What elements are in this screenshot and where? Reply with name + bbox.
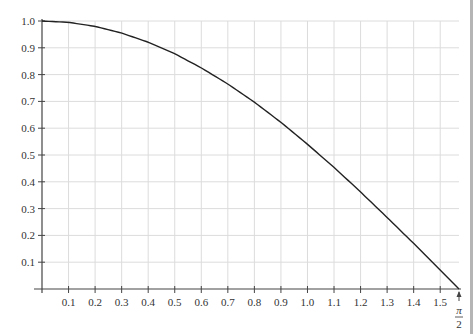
y-tick-label: 0.5 — [21, 149, 35, 161]
x-tick-label: 1.0 — [301, 296, 315, 308]
x-tick-label: 1.1 — [327, 296, 341, 308]
y-tick-label: 0.3 — [21, 203, 35, 215]
x-tick-label: 0.9 — [274, 296, 288, 308]
y-tick-label: 0.6 — [21, 122, 35, 134]
x-axis-end-label-pi-over-2: π2 — [455, 291, 463, 330]
x-tick-label: 0.3 — [115, 296, 129, 308]
y-tick-label: 0.7 — [21, 95, 35, 107]
x-tick-label: 1.3 — [380, 296, 394, 308]
x-tick-label: 0.2 — [88, 296, 102, 308]
x-tick-label: 1.4 — [407, 296, 421, 308]
pi-numerator: π — [456, 304, 462, 316]
y-tick-label: 0.8 — [21, 69, 35, 81]
y-tick-label: 0.1 — [21, 256, 35, 268]
y-tick-label: 0.2 — [21, 229, 35, 241]
pi-denominator: 2 — [456, 318, 462, 330]
x-tick-label: 0.7 — [221, 296, 235, 308]
x-tick-label: 0.5 — [168, 296, 182, 308]
y-tick-label: 0.4 — [21, 176, 35, 188]
x-tick-label: 0.6 — [194, 296, 208, 308]
y-tick-label: 1.0 — [21, 15, 35, 27]
y-tick-label: 0.9 — [21, 42, 35, 54]
x-tick-label: 1.5 — [433, 296, 447, 308]
x-tick-label: 0.1 — [62, 296, 76, 308]
axes — [34, 19, 461, 293]
x-tick-label: 1.2 — [354, 296, 368, 308]
chart: 0.10.20.30.40.50.60.70.80.91.01.11.21.31… — [0, 0, 475, 334]
grid-lines — [42, 21, 459, 289]
right-edge-bar — [470, 0, 473, 334]
x-tick-label: 0.8 — [248, 296, 262, 308]
x-tick-label: 0.4 — [141, 296, 155, 308]
